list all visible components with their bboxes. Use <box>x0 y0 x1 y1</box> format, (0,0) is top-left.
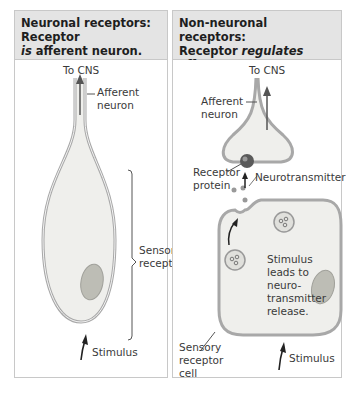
sensory-receptor-cell-label-3: cell <box>179 367 197 380</box>
header-emphasis: is <box>21 44 32 58</box>
neurotransmitter-molecule <box>232 188 237 193</box>
header-emphasis: regulates <box>242 44 304 58</box>
afferent-neuron-label-2: neuron <box>201 108 238 121</box>
afferent-neuron-label-1: Afferent <box>97 86 139 99</box>
non-neuronal-receptors-header: Non-neuronal receptors: Receptor regulat… <box>172 10 342 60</box>
sensory-receptor-cell-label-1: Sensory <box>179 341 221 354</box>
sensory-receptor-bracket <box>128 170 136 340</box>
neuronal-receptors-body: To CNS Afferent neuron Sensory receptor … <box>14 60 168 378</box>
stimulus-leads-label-4: transmitter <box>267 292 326 305</box>
receptor-protein <box>240 154 254 168</box>
neuronal-receptors-panel: Neuronal receptors: Receptor is afferent… <box>14 10 168 378</box>
neuronal-receptors-header: Neuronal receptors: Receptor is afferent… <box>14 10 168 60</box>
afferent-neuron-label-2: neuron <box>97 99 134 112</box>
receptor-protein-label-1: Receptor <box>193 166 240 179</box>
stimulus-leads-label-5: release. <box>267 305 309 318</box>
receptor-cell-illustration <box>173 60 343 378</box>
vesicle <box>274 212 294 232</box>
neurotransmitter-molecule <box>243 198 248 203</box>
to-cns-label: To CNS <box>249 64 285 77</box>
receptor-protein-label-2: protein <box>193 179 230 192</box>
header-line-1: Neuronal receptors: Receptor <box>21 16 161 44</box>
stimulus-label: Stimulus <box>289 352 335 365</box>
non-neuronal-receptors-panel: Non-neuronal receptors: Receptor regulat… <box>172 10 342 378</box>
afferent-neuron-label-1: Afferent <box>201 95 243 108</box>
stimulus-leads-label-2: leads to <box>267 266 309 279</box>
to-cns-label: To CNS <box>63 64 99 77</box>
non-neuronal-receptors-body: To CNS Afferent neuron Receptor protein … <box>172 60 342 378</box>
stimulus-leads-label-1: Stimulus <box>267 253 313 266</box>
header-line-2: is afferent neuron. <box>21 44 161 58</box>
header-line-2-rest: afferent neuron. <box>32 44 142 58</box>
neurotransmitter-label: Neurotransmitter <box>255 171 346 184</box>
vesicle <box>225 250 245 270</box>
afferent-neuron-illustration <box>15 60 169 378</box>
sensory-neuron-shape <box>43 78 115 322</box>
sensory-receptor-cell-label-2: receptor <box>179 354 223 367</box>
stimulus-label: Stimulus <box>92 346 138 359</box>
stimulus-leads-label-3: neuro- <box>267 279 301 292</box>
header-line-1: Non-neuronal receptors: <box>179 16 335 44</box>
